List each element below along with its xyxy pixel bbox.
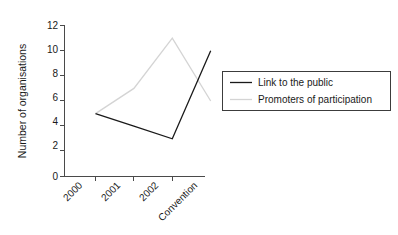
x-tick-label-2002: 2002 [137, 179, 161, 203]
y-tick-label-0: 0 [52, 171, 58, 182]
y-tick-label-10: 10 [47, 44, 59, 55]
y-axis-title: Number of organisations [16, 44, 28, 158]
chart-legend: Link to the public Promoters of particip… [223, 72, 391, 111]
y-tick-label-12: 12 [47, 20, 59, 31]
x-tick-label-convention: Convention [156, 180, 200, 224]
y-tick-label-2: 2 [52, 140, 58, 151]
x-tick-label-2001: 2001 [99, 179, 123, 203]
y-tick-label-4: 4 [52, 116, 58, 127]
legend-label-link-to-the-public: Link to the public [258, 77, 333, 88]
chart-figure: Number of organisations 12 10 8 6 4 2 0 … [0, 0, 398, 235]
line-chart: Number of organisations 12 10 8 6 4 2 0 … [0, 0, 398, 235]
series-group [96, 38, 211, 139]
y-tick-label-8: 8 [52, 68, 58, 79]
x-tick-label-2000: 2000 [61, 179, 85, 203]
y-tick-label-6: 6 [52, 92, 58, 103]
legend-label-promoters-of-participation: Promoters of participation [258, 94, 372, 105]
series-line-promoters-of-participation [96, 38, 211, 114]
